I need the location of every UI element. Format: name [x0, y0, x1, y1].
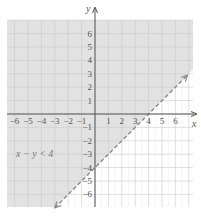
y-tick-label: −6 — [82, 189, 92, 199]
inequality-graph: −6−5−4−3−2−1123456654321−1−2−3−4−5−6 x y… — [0, 0, 201, 217]
y-tick-label: −2 — [82, 136, 92, 146]
x-tick-label: 5 — [160, 116, 165, 126]
x-tick-label: 2 — [120, 116, 125, 126]
y-tick-label: 5 — [88, 42, 93, 52]
x-tick-label: −2 — [63, 116, 73, 126]
y-tick-label: −3 — [82, 149, 92, 159]
y-tick-label: 4 — [88, 55, 93, 65]
x-tick-label: 6 — [173, 116, 178, 126]
x-tick-label: 3 — [133, 116, 138, 126]
x-tick-label: 4 — [146, 116, 151, 126]
y-tick-label: 2 — [88, 82, 93, 92]
inequality-label: x − y < 4 — [15, 148, 53, 159]
y-tick-label: 6 — [88, 29, 93, 39]
y-tick-label: 1 — [88, 96, 93, 106]
y-tick-label: −1 — [82, 122, 92, 132]
y-tick-label: −4 — [82, 163, 92, 173]
y-tick-label: −5 — [82, 176, 92, 186]
x-axis-label: x — [191, 118, 197, 129]
x-tick-label: −6 — [10, 116, 20, 126]
x-tick-label: −3 — [50, 116, 60, 126]
x-tick-label: 1 — [106, 116, 111, 126]
y-tick-label: 3 — [88, 69, 93, 79]
y-axis-label: y — [85, 3, 91, 14]
x-tick-label: −5 — [23, 116, 33, 126]
x-tick-label: −4 — [37, 116, 47, 126]
